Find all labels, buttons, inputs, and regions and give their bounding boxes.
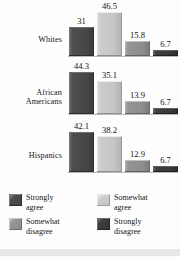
legend-label: Strongly agree: [26, 193, 92, 212]
plot-area-hispanics: 42.1 38.2 12.9 6.7: [68, 118, 180, 176]
group-label-african-americans: African Americans: [0, 88, 62, 107]
bar-somewhat-disagree[interactable]: [125, 41, 150, 56]
chart-group-whites: Whites 31 46.5 15.8 6.7: [0, 2, 180, 60]
bar-somewhat-disagree[interactable]: [125, 101, 150, 114]
bar-strongly-agree[interactable]: [69, 72, 94, 114]
plot-area-whites: 31 46.5 15.8 6.7: [68, 2, 180, 60]
bar-somewhat-disagree[interactable]: [125, 160, 150, 172]
baseline: [68, 172, 178, 173]
chart-group-african-americans: African Americans 44.3 35.1 13.9 6.7: [0, 60, 180, 118]
legend-swatch-icon: [9, 194, 22, 206]
legend-item-strongly-agree[interactable]: Strongly agree: [9, 193, 92, 212]
legend-swatch-icon: [97, 218, 110, 230]
bar-somewhat-agree[interactable]: [97, 12, 122, 56]
legend-swatch-icon: [97, 194, 110, 206]
bar-somewhat-agree[interactable]: [97, 136, 122, 172]
chart-legend: Strongly agree Somewhat agree Somewhat d…: [8, 192, 176, 244]
legend-label: Somewhat agree: [114, 193, 180, 212]
bar-value-label: 6.7: [149, 98, 180, 107]
baseline: [68, 114, 178, 115]
bar-value-label: 44.3: [65, 62, 98, 71]
bar-value-label: 35.1: [93, 71, 126, 80]
bar-value-label: 46.5: [93, 2, 126, 11]
bar-chart: Whites 31 46.5 15.8 6.7 African: [0, 0, 180, 260]
bar-value-label: 6.7: [149, 40, 180, 49]
legend-label: Somewhat disagree: [26, 217, 92, 236]
legend-item-somewhat-disagree[interactable]: Somewhat disagree: [9, 217, 92, 236]
bar-somewhat-agree[interactable]: [97, 81, 122, 114]
bar-value-label: 31: [65, 17, 98, 26]
legend-item-somewhat-agree[interactable]: Somewhat agree: [97, 193, 180, 212]
bar-value-label: 6.7: [149, 156, 180, 165]
bar-value-label: 15.8: [121, 31, 154, 40]
page-bottom-band: [0, 249, 180, 256]
legend-label: Strongly disagree: [114, 217, 180, 236]
bar-strongly-disagree[interactable]: [153, 166, 178, 172]
bar-value-label: 38.2: [93, 126, 126, 135]
group-label-whites: Whites: [0, 35, 62, 44]
bar-strongly-agree[interactable]: [69, 132, 94, 172]
bar-strongly-agree[interactable]: [69, 27, 94, 56]
legend-swatch-icon: [9, 218, 22, 230]
plot-area-african-americans: 44.3 35.1 13.9 6.7: [68, 60, 180, 118]
baseline: [68, 56, 178, 57]
chart-group-hispanics: Hispanics 42.1 38.2 12.9 6.7: [0, 118, 180, 176]
bar-strongly-disagree[interactable]: [153, 50, 178, 56]
group-label-hispanics: Hispanics: [0, 151, 62, 160]
bar-strongly-disagree[interactable]: [153, 108, 178, 114]
legend-item-strongly-disagree[interactable]: Strongly disagree: [97, 217, 180, 236]
